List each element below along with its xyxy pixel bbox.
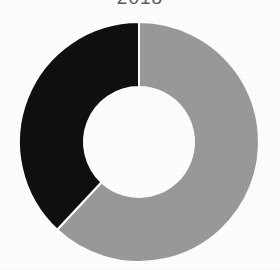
donut-chart — [0, 0, 280, 270]
donut-center-hole — [84, 87, 194, 197]
chart-figure: 2018 — [0, 0, 280, 270]
